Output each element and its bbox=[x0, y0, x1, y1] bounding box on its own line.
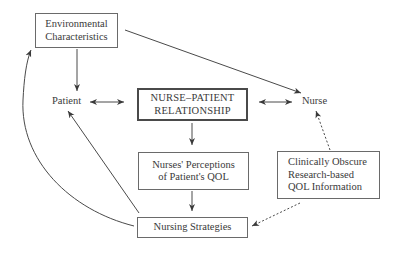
node-nursing-strategies: Nursing Strategies bbox=[137, 217, 248, 238]
node-line: Characteristics bbox=[45, 31, 107, 44]
node-line: Environmental bbox=[45, 18, 107, 31]
node-nurse: Nurse bbox=[302, 95, 327, 106]
node-clinical-research-info: Clinically Obscure Research-based QOL In… bbox=[277, 151, 380, 199]
node-nurse-patient-relationship: NURSE–PATIENT RELATIONSHIP bbox=[137, 88, 248, 121]
node-line: QOL Information bbox=[288, 181, 362, 194]
node-line: Clinically Obscure bbox=[288, 156, 367, 169]
edge-strategies-to-environmental bbox=[23, 50, 134, 226]
edge-environmental-to-nurse bbox=[125, 30, 301, 93]
node-line: Nurses' Perceptions bbox=[152, 159, 235, 172]
node-line: Nursing Strategies bbox=[154, 221, 232, 234]
edge-clinical-to-nurse bbox=[316, 111, 330, 150]
node-line: RELATIONSHIP bbox=[154, 105, 231, 118]
edge-clinical-to-strategies bbox=[252, 203, 300, 226]
node-line: NURSE–PATIENT bbox=[151, 92, 235, 105]
node-line: of Patient's QOL bbox=[158, 171, 229, 184]
node-nurses-perceptions: Nurses' Perceptions of Patient's QOL bbox=[138, 152, 249, 190]
node-patient: Patient bbox=[52, 95, 81, 106]
edge-strategies-to-patient bbox=[68, 111, 139, 213]
node-line: Research-based bbox=[288, 169, 354, 182]
node-environmental-characteristics: Environmental Characteristics bbox=[35, 13, 118, 48]
